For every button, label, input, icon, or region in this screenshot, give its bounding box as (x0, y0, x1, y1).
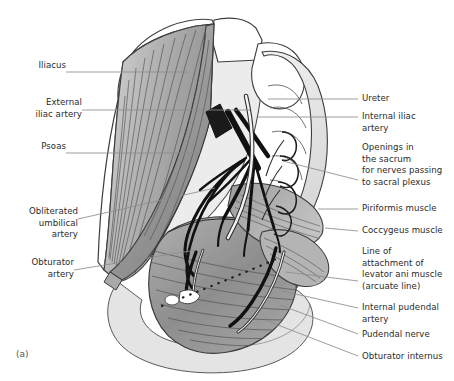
label-obturator-artery: Obturator artery (32, 257, 74, 280)
label-pudendal-nerve: Pudendal nerve (362, 329, 430, 341)
leader-obturator-artery (74, 250, 196, 270)
leader-levator-ani-line (286, 272, 358, 281)
leader-sacral-openings (283, 161, 358, 180)
leader-internal-pudendal-artery (282, 291, 358, 308)
label-obliterated-umbilical-artery: Obliterated umbilical artery (29, 206, 78, 241)
label-internal-iliac-artery: Internal iliac artery (362, 111, 416, 134)
label-iliacus: Iliacus (38, 60, 66, 72)
label-external-iliac-artery: External iliac artery (35, 97, 82, 120)
label-sacral-openings: Openings in the sacrum for nerves passin… (362, 142, 442, 188)
leader-coccygeus-muscle (325, 228, 358, 231)
label-ureter: Ureter (362, 93, 389, 105)
label-levator-ani-line: Line of attachment of levator ani muscle… (362, 246, 442, 292)
label-piriformis-muscle: Piriformis muscle (362, 203, 436, 215)
figure-canvas: Iliacus External iliac artery Psoas Obli… (0, 0, 454, 381)
label-internal-pudendal-artery: Internal pudendal artery (362, 302, 439, 325)
label-coccygeus-muscle: Coccygeus muscle (362, 225, 443, 237)
leader-obturator-internus (265, 320, 358, 356)
leader-pudendal-nerve (280, 305, 358, 334)
label-psoas: Psoas (41, 141, 66, 153)
leader-obliterated-umbilical-artery (78, 188, 215, 219)
figure-caption: (a) (16, 349, 29, 359)
label-obturator-internus: Obturator internus (362, 351, 443, 363)
